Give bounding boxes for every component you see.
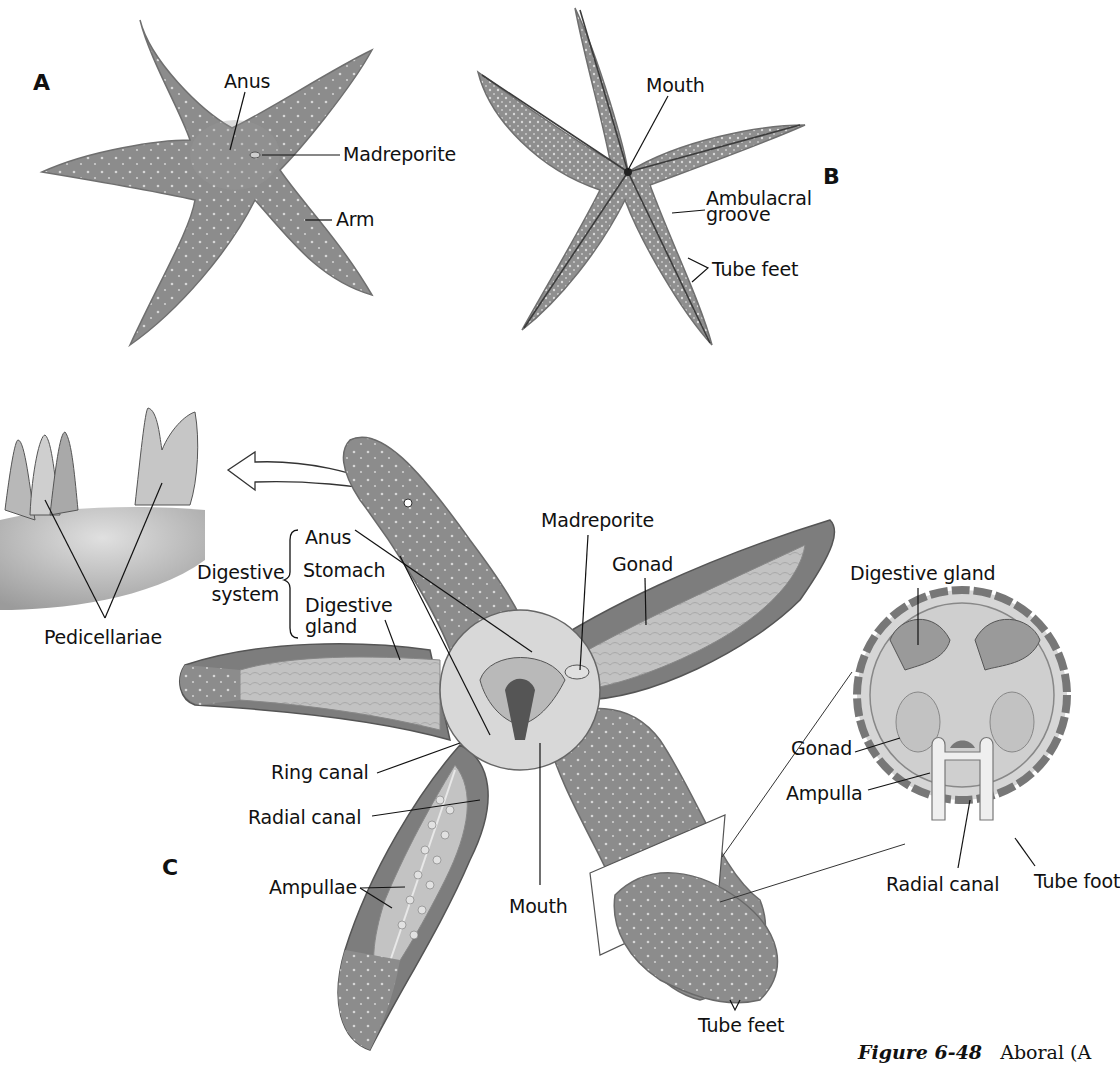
label-a-anus: Anus — [224, 72, 270, 91]
label-c-ampullae: Ampullae — [269, 878, 357, 897]
starfish-oral-view — [478, 8, 805, 345]
label-c-stomach: Stomach — [303, 561, 385, 580]
panel-letter-c: C — [162, 857, 178, 879]
label-xs-radial-canal: Radial canal — [886, 875, 999, 894]
arm-cross-section — [855, 588, 1067, 868]
label-b-mouth: Mouth — [646, 76, 705, 95]
label-pedicellariae: Pedicellariae — [44, 628, 162, 647]
panel-letter-a: A — [33, 72, 50, 94]
label-c-gonad: Gonad — [612, 555, 673, 574]
label-a-madreporite: Madreporite — [343, 145, 456, 164]
label-c-tube-feet: Tube feet — [698, 1016, 784, 1035]
label-c-digestive-gland-line2: gland — [305, 616, 392, 637]
label-xs-tube-foot: Tube foot — [1034, 872, 1120, 891]
label-c-mouth: Mouth — [509, 897, 568, 916]
label-digestive-system-line2: system — [197, 584, 279, 606]
label-xs-gonad: Gonad — [791, 739, 852, 758]
label-c-madreporite: Madreporite — [541, 511, 654, 530]
label-xs-digestive-gland: Digestive gland — [850, 564, 995, 583]
label-a-arm: Arm — [336, 210, 374, 229]
figure-caption: Figure 6-48 Aboral (A — [858, 1041, 1091, 1063]
label-digestive-system: Digestive system — [197, 562, 279, 606]
label-c-radial-canal: Radial canal — [248, 808, 361, 827]
starfish-aboral-view — [42, 20, 372, 345]
label-c-anus: Anus — [305, 528, 351, 547]
figure-caption-text: Aboral (A — [1000, 1041, 1091, 1063]
label-b-tube-feet: Tube feet — [712, 260, 798, 279]
label-c-digestive-gland-line1: Digestive — [305, 595, 392, 616]
label-c-digestive-gland: Digestive gland — [305, 595, 392, 637]
label-c-ring-canal: Ring canal — [271, 763, 369, 782]
figure-number: Figure 6-48 — [858, 1041, 982, 1063]
label-digestive-system-line1: Digestive — [197, 562, 279, 584]
label-xs-ampulla: Ampulla — [786, 784, 862, 803]
label-b-ambulacral-groove: Ambulacral groove — [706, 190, 812, 222]
panel-letter-b: B — [823, 166, 840, 188]
